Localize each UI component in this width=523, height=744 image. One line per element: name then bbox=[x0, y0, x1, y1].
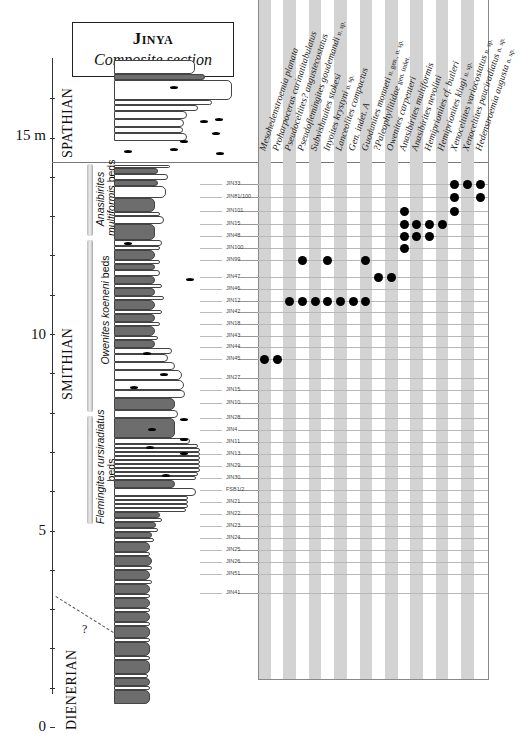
dark-lithology-bed bbox=[114, 660, 150, 674]
sample-row-line bbox=[258, 430, 488, 431]
sample-row-line bbox=[258, 277, 488, 278]
sample-label: JIN10 bbox=[226, 399, 274, 405]
sample-label: JIN23 bbox=[226, 522, 274, 528]
light-lithology-bed bbox=[114, 186, 166, 198]
sample-label: JIN18 bbox=[226, 320, 274, 326]
sample-row-line bbox=[258, 378, 488, 379]
scale-tick bbox=[50, 98, 55, 99]
sample-connector bbox=[200, 301, 222, 302]
sample-row-line bbox=[258, 418, 488, 419]
scale-tick bbox=[50, 531, 55, 532]
sample-row-line bbox=[258, 526, 488, 527]
light-lithology-bed bbox=[114, 111, 187, 119]
occurrence-dot bbox=[387, 273, 396, 282]
sample-row-line bbox=[258, 514, 488, 515]
sample-connector bbox=[200, 418, 222, 419]
occurrence-dot bbox=[260, 355, 269, 364]
occurrence-dot bbox=[298, 256, 307, 265]
sample-label: JIN26 bbox=[226, 558, 274, 564]
dark-lithology-bed bbox=[114, 570, 150, 580]
ammonoid-fossil-icon bbox=[143, 352, 151, 355]
sample-connector bbox=[200, 277, 222, 278]
taxon-qualifier: n. sp. bbox=[504, 47, 516, 64]
ammonoid-fossil-icon bbox=[215, 118, 223, 121]
sample-row-line bbox=[258, 336, 488, 337]
sample-connector bbox=[200, 312, 222, 313]
dark-lithology-bed bbox=[114, 398, 175, 410]
sample-connector bbox=[200, 442, 222, 443]
sample-connector bbox=[200, 526, 222, 527]
occurrence-dot bbox=[400, 244, 409, 253]
scale-tick bbox=[50, 452, 55, 453]
bed-range-arrow-flemingites bbox=[87, 416, 93, 524]
ammonoid-fossil-icon bbox=[124, 150, 132, 153]
section-title: Jinya bbox=[73, 29, 233, 49]
light-lithology-bed bbox=[114, 354, 168, 362]
occurrence-dot bbox=[450, 193, 459, 202]
sample-connector bbox=[200, 347, 222, 348]
sample-row-line bbox=[258, 260, 488, 261]
sample-label: JIN99 bbox=[226, 256, 274, 262]
dark-lithology-bed bbox=[114, 224, 155, 240]
sample-row-line bbox=[258, 289, 488, 290]
dark-lithology-bed bbox=[114, 300, 155, 310]
ammonoid-fossil-icon bbox=[180, 452, 188, 455]
ammonoid-fossil-icon bbox=[180, 418, 188, 421]
light-lithology-bed bbox=[114, 390, 185, 398]
sample-label: FSB1/2 bbox=[226, 486, 274, 492]
bed-label-owenites: Owenites koeneni beds bbox=[100, 240, 111, 380]
scale-label-10: 10 bbox=[0, 326, 46, 343]
dark-lithology-bed bbox=[114, 556, 152, 566]
sample-connector bbox=[200, 224, 222, 225]
sample-label: JIN29 bbox=[226, 462, 274, 468]
occurrence-dot bbox=[412, 220, 421, 229]
sample-label: JIN15 bbox=[226, 386, 274, 392]
scale-tick bbox=[50, 138, 55, 139]
bed-range-arrow-anasibirites bbox=[87, 164, 93, 236]
sample-label: JIN101 bbox=[226, 207, 274, 213]
bed-range-arrow-owenites bbox=[87, 240, 93, 412]
scale-tick bbox=[50, 255, 55, 256]
sample-label: JIN11 bbox=[226, 438, 274, 444]
scale-label-0: 0 bbox=[0, 718, 46, 735]
sample-label: JIN25 bbox=[226, 546, 274, 552]
dark-lithology-bed bbox=[114, 198, 155, 212]
sample-connector bbox=[200, 593, 222, 594]
scale-tick bbox=[50, 570, 55, 571]
occurrence-dot bbox=[463, 180, 472, 189]
sample-connector bbox=[200, 478, 222, 479]
stage-label-spathian: SPATHIAN bbox=[60, 88, 76, 158]
scale-tick bbox=[50, 334, 55, 335]
sample-connector bbox=[200, 403, 222, 404]
ammonoid-fossil-icon bbox=[170, 148, 178, 151]
occurrence-dot bbox=[400, 232, 409, 241]
light-lithology-bed bbox=[114, 80, 232, 100]
scale-tick bbox=[50, 177, 55, 178]
sample-label: JIN28 bbox=[226, 414, 274, 420]
ammonoid-fossil-icon bbox=[130, 386, 138, 389]
uncertain-boundary-mark: ? bbox=[82, 622, 87, 637]
sample-connector bbox=[200, 289, 222, 290]
sample-label: JIN30 bbox=[226, 474, 274, 480]
dark-lithology-bed bbox=[114, 418, 175, 438]
sample-row-line bbox=[258, 403, 488, 404]
scale-tick bbox=[50, 688, 55, 689]
sample-connector bbox=[200, 236, 222, 237]
stage-label-smithian: SMITHIAN bbox=[60, 328, 76, 400]
sample-label: JIN13 bbox=[226, 450, 274, 456]
occurrence-dot bbox=[450, 207, 459, 216]
sample-row-line bbox=[258, 454, 488, 455]
dark-lithology-bed bbox=[114, 340, 155, 348]
sample-row-line bbox=[258, 490, 488, 491]
dark-lithology-bed bbox=[114, 678, 150, 686]
light-lithology-bed bbox=[114, 370, 182, 380]
sample-label: JIN48 bbox=[226, 232, 274, 238]
scale-tick bbox=[50, 216, 55, 217]
sample-connector bbox=[200, 550, 222, 551]
ammonoid-fossil-icon bbox=[170, 86, 178, 89]
sample-connector bbox=[200, 466, 222, 467]
ammonoid-fossil-icon bbox=[180, 140, 188, 143]
sample-label: JIN51 bbox=[226, 570, 274, 576]
sample-connector bbox=[200, 514, 222, 515]
scale-label-5: 5 bbox=[0, 522, 46, 539]
